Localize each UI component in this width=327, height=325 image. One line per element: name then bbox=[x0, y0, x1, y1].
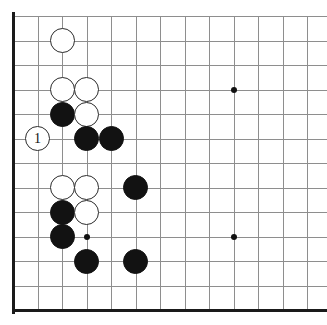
star-point-upper bbox=[231, 87, 237, 93]
grid-line-horizontal bbox=[13, 65, 327, 66]
grid-line-horizontal bbox=[13, 16, 327, 17]
white-stone-c3r3[interactable] bbox=[74, 77, 99, 102]
star-point-lower-right bbox=[231, 234, 237, 240]
black-stone-c3r5[interactable] bbox=[74, 126, 99, 151]
white-stone-c2[interactable] bbox=[50, 28, 75, 53]
white-stone-c3r4[interactable] bbox=[74, 102, 99, 127]
black-stone-c3r10[interactable] bbox=[74, 249, 99, 274]
go-board-figure: 1 bbox=[0, 0, 327, 325]
grid-line-horizontal bbox=[13, 163, 327, 164]
grid-line-horizontal bbox=[13, 139, 327, 140]
grid-line-horizontal bbox=[13, 286, 327, 287]
black-stone-c5r7[interactable] bbox=[123, 175, 148, 200]
black-stone-c5r10[interactable] bbox=[123, 249, 148, 274]
black-stone-c2r9[interactable] bbox=[50, 224, 75, 249]
white-stone-c3r8[interactable] bbox=[74, 200, 99, 225]
page-corner-artifact bbox=[0, 0, 34, 10]
white-stone-c3r7[interactable] bbox=[74, 175, 99, 200]
grid-line-horizontal bbox=[13, 261, 327, 262]
white-stone-c2r7[interactable] bbox=[50, 175, 75, 200]
stone-move-number: 1 bbox=[34, 132, 41, 146]
black-stone-c4r5[interactable] bbox=[99, 126, 124, 151]
black-stone-c2r4[interactable] bbox=[50, 102, 75, 127]
black-stone-c2r8[interactable] bbox=[50, 200, 75, 225]
board-edge-bottom bbox=[12, 309, 327, 312]
star-point-lower-left bbox=[84, 234, 90, 240]
white-stone-move-1[interactable]: 1 bbox=[25, 126, 50, 151]
board-edge-left bbox=[12, 12, 15, 314]
white-stone-c2r3[interactable] bbox=[50, 77, 75, 102]
